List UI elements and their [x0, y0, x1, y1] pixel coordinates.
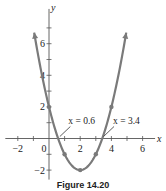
x-tick-label: 2	[78, 143, 83, 154]
data-point	[109, 105, 113, 109]
y-tick-label: 2	[40, 101, 45, 112]
y-tick-label: 6	[40, 38, 45, 49]
x-tick-label: 0	[42, 143, 47, 154]
y-axis-label: y	[50, 2, 56, 13]
data-point	[47, 105, 51, 109]
annotation-root-2: x = 3.4	[113, 116, 140, 126]
figure-caption: Figure 14.20	[0, 180, 166, 190]
parabola-chart: −20246−2246xyx = 0.6x = 3.4	[0, 0, 166, 191]
y-tick-label: −2	[34, 165, 45, 176]
data-point	[94, 152, 98, 156]
data-point	[78, 168, 82, 172]
x-axis-label: x	[156, 133, 162, 144]
annotation-pointer	[60, 127, 71, 137]
data-point	[62, 152, 66, 156]
x-tick-label: 6	[140, 143, 145, 154]
annotation-root-1: x = 0.6	[68, 116, 95, 126]
x-tick-label: −2	[12, 143, 23, 154]
x-tick-label: 4	[109, 143, 114, 154]
